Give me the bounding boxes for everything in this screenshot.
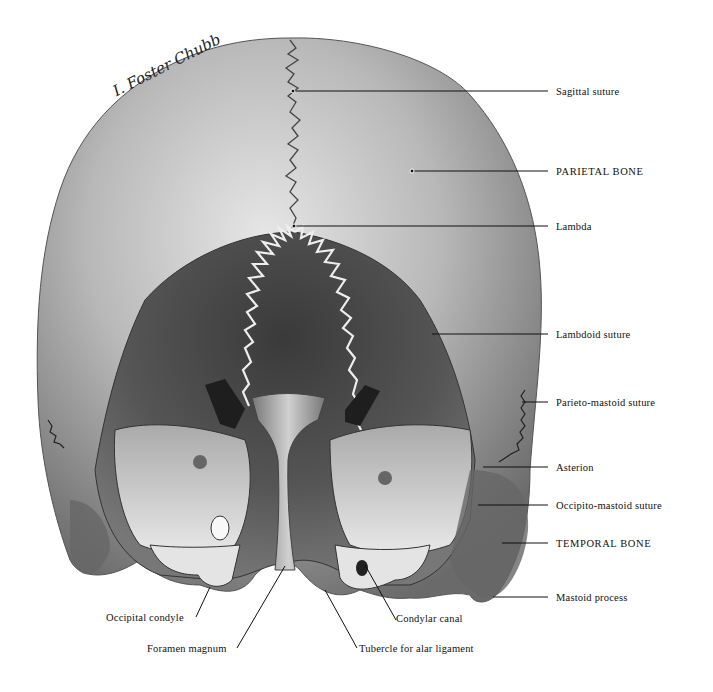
- skull-illustration: [0, 0, 713, 692]
- label-foramen-magnum: Foramen magnum: [147, 643, 227, 655]
- label-parietal-bone: PARIETAL BONE: [556, 166, 644, 178]
- label-parieto-mastoid-suture: Parieto-mastoid suture: [556, 397, 655, 409]
- label-condylar-canal: Condylar canal: [396, 613, 463, 625]
- label-tubercle-alar-ligament: Tubercle for alar ligament: [359, 643, 474, 655]
- anatomical-figure: I. Foster Chubb Sagittal suture PARIETAL…: [0, 0, 713, 692]
- label-temporal-bone: TEMPORAL BONE: [556, 538, 651, 550]
- label-asterion: Asterion: [556, 462, 594, 474]
- label-mastoid-process: Mastoid process: [556, 592, 628, 604]
- right-cerebellar-fossa: [330, 425, 472, 555]
- label-sagittal-suture: Sagittal suture: [556, 86, 619, 98]
- label-lambdoid-suture: Lambdoid suture: [556, 329, 630, 341]
- label-occipito-mastoid-suture: Occipito-mastoid suture: [556, 500, 662, 512]
- left-cerebellar-fossa: [114, 425, 250, 555]
- label-occipital-condyle: Occipital condyle: [106, 612, 184, 624]
- label-lambda: Lambda: [556, 221, 592, 233]
